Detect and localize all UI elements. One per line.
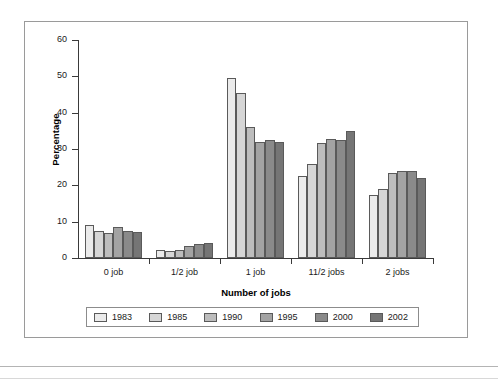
plot-area — [78, 40, 433, 258]
y-axis-tick-label: 10 — [39, 217, 67, 226]
bar — [194, 244, 204, 258]
bar — [378, 189, 388, 258]
y-axis-tick-label: 0 — [39, 253, 67, 262]
bar-group — [227, 40, 285, 258]
legend-label: 1985 — [167, 313, 187, 322]
x-axis-tick — [362, 259, 363, 264]
bar — [255, 142, 265, 258]
page-divider-rule — [0, 366, 498, 367]
bar — [236, 93, 246, 258]
y-axis-tick-label: 30 — [39, 144, 67, 153]
bar — [123, 231, 133, 258]
x-axis-tick — [291, 259, 292, 264]
bar-group — [156, 40, 214, 258]
x-axis-line — [78, 258, 434, 259]
bar — [113, 227, 123, 258]
x-axis-title: Number of jobs — [78, 287, 434, 298]
bar — [265, 140, 275, 258]
y-axis-tick-label: 60 — [39, 35, 67, 44]
bar — [227, 78, 237, 258]
bar — [204, 243, 214, 258]
legend-label: 1990 — [222, 313, 242, 322]
legend-label: 2000 — [333, 313, 353, 322]
bar — [388, 173, 398, 258]
bar — [275, 142, 285, 258]
bar — [346, 131, 356, 258]
legend-label: 1983 — [112, 313, 132, 322]
legend-item[interactable]: 1995 — [253, 313, 308, 322]
y-axis-tick-label: 20 — [39, 180, 67, 189]
bar — [307, 164, 317, 258]
bar — [175, 250, 185, 258]
bar — [85, 225, 95, 258]
bar — [298, 176, 308, 258]
x-axis-tick — [149, 259, 150, 264]
figure-frame: Percentage 0102030405060 0 job1/2 job1 j… — [24, 21, 468, 338]
bar — [94, 231, 104, 258]
chart-plot-wrapper: Percentage 0102030405060 0 job1/2 job1 j… — [25, 22, 469, 339]
bar — [369, 195, 379, 258]
legend-swatch-icon — [149, 313, 162, 322]
x-axis-tick — [433, 259, 434, 264]
x-axis-category-label: 0 job — [78, 268, 150, 277]
legend-item[interactable]: 1990 — [197, 313, 252, 322]
legend-label: 2002 — [388, 313, 408, 322]
x-axis-tick — [220, 259, 221, 264]
legend-label: 1995 — [278, 313, 298, 322]
x-axis-category-label: 11/2 jobs — [291, 268, 363, 277]
y-axis-tick-label: 40 — [39, 108, 67, 117]
bar — [184, 246, 194, 258]
legend-swatch-icon — [315, 313, 328, 322]
bar — [246, 127, 256, 258]
legend-item[interactable]: 1983 — [87, 313, 142, 322]
legend-swatch-icon — [260, 313, 273, 322]
chart-legend: 198319851990199520002002 — [86, 307, 419, 327]
x-axis-category-label: 2 jobs — [362, 268, 434, 277]
bar — [326, 139, 336, 258]
legend-item[interactable]: 2000 — [308, 313, 363, 322]
bar-group — [369, 40, 427, 258]
bar-group — [85, 40, 143, 258]
bar-group — [298, 40, 356, 258]
bar — [165, 251, 175, 258]
bar — [156, 250, 166, 258]
y-axis-tick — [72, 258, 78, 259]
bar — [407, 171, 417, 258]
bar — [317, 143, 327, 258]
bar — [104, 233, 114, 258]
page-divider-rule-secondary — [0, 378, 498, 379]
bar — [397, 171, 407, 258]
bar — [336, 140, 346, 258]
legend-item[interactable]: 1985 — [142, 313, 197, 322]
y-axis-tick-label: 50 — [39, 71, 67, 80]
legend-swatch-icon — [204, 313, 217, 322]
bar — [133, 232, 143, 258]
legend-swatch-icon — [370, 313, 383, 322]
x-axis-category-label: 1/2 job — [149, 268, 221, 277]
legend-swatch-icon — [94, 313, 107, 322]
legend-item[interactable]: 2002 — [363, 313, 418, 322]
x-axis-category-label: 1 job — [220, 268, 292, 277]
bar — [417, 178, 427, 258]
